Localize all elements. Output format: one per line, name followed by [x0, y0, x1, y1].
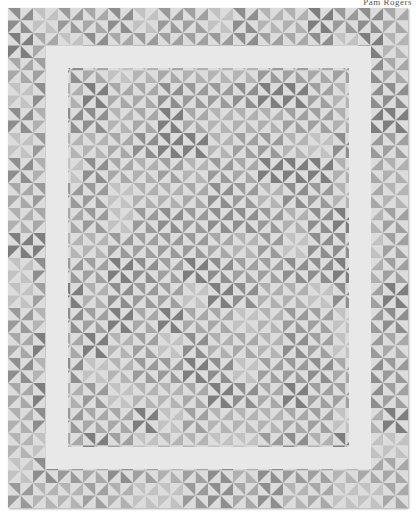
quilt-image — [8, 8, 408, 508]
photo-caption: Pam Rogers — [363, 0, 412, 7]
quilt-photo — [8, 8, 408, 508]
